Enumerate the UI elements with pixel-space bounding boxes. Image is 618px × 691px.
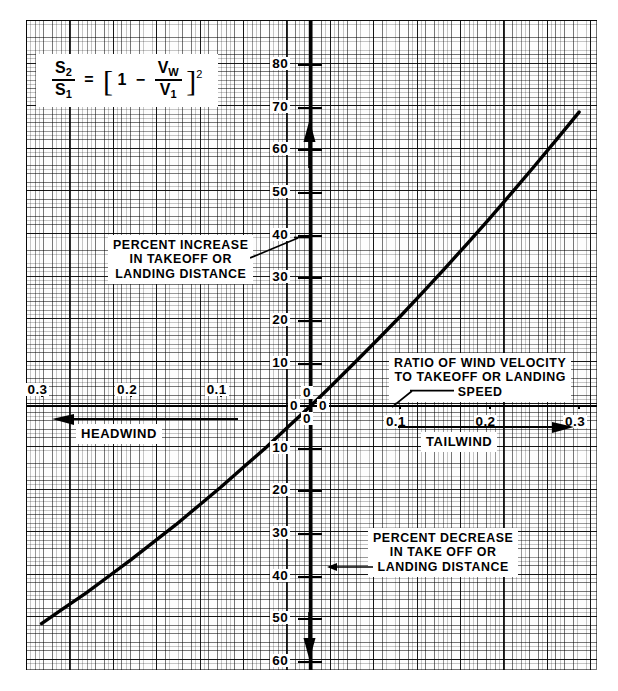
formula-lhs-denominator: S1 (52, 79, 75, 100)
y-tick-label-plus-10: 10 (270, 356, 290, 369)
axis-tick (298, 107, 322, 109)
formula-equals: = (79, 71, 98, 88)
down-arrow-icon (301, 612, 319, 660)
formula-lhs: S2 S1 (52, 60, 75, 100)
formula-exponent: 2 (196, 68, 202, 80)
formula-bracket-close: ] (186, 64, 196, 97)
formula-bracket-open: [ (103, 64, 113, 97)
y-tick-label-plus-30: 30 (270, 270, 290, 283)
x-tick-label-headwind-0.1: 0.1 (205, 383, 229, 396)
origin-label-lower: 0 (301, 412, 313, 425)
figure-root: 8070605040302010 102030405060 0.30.20.1 … (0, 0, 618, 691)
y-tick-label-minus-60: 60 (270, 654, 290, 667)
axis-tick (298, 363, 322, 365)
formula-rhs-denominator: V1 (155, 79, 182, 100)
axis-tick (298, 320, 322, 322)
callout-ratio-leader (392, 388, 456, 408)
x-tick-label-headwind-0.3: 0.3 (26, 383, 50, 396)
x-tick-label-headwind-0.2: 0.2 (115, 383, 139, 396)
y-tick-label-plus-70: 70 (270, 100, 290, 113)
y-tick-label-plus-60: 60 (270, 142, 290, 155)
x-axis-line (26, 405, 597, 407)
callout-increase-leader (250, 236, 314, 260)
callout-decrease-line2: IN TAKE OFF OR (373, 545, 513, 559)
axis-tick (298, 64, 322, 66)
origin-label-left: 0 (288, 399, 300, 412)
y-tick-label-plus-80: 80 (270, 57, 290, 70)
callout-decrease-line3: LANDING DISTANCE (373, 560, 513, 574)
axis-tick (489, 407, 491, 409)
axis-tick (298, 490, 322, 492)
y-tick-label-minus-10: 10 (270, 441, 290, 454)
callout-percent-decrease: PERCENT DECREASE IN TAKE OFF OR LANDING … (368, 528, 518, 577)
formula-minus: − (131, 71, 150, 88)
y-tick-label-minus-50: 50 (270, 611, 290, 624)
callout-increase-line2: IN TAKEOFF OR (113, 252, 248, 266)
formula-box: S2 S1 = [ 1 − VW V1 ]2 (36, 54, 218, 107)
y-tick-label-minus-20: 20 (270, 483, 290, 496)
callout-decrease-leader (327, 560, 373, 574)
axis-tick (298, 661, 322, 663)
callout-ratio-line1: RATIO OF WIND VELOCITY (394, 356, 566, 370)
axis-tick (298, 192, 322, 194)
callout-ratio-line2: TO TAKEOFF OR LANDING (394, 370, 566, 384)
formula-rhs-numerator: VW (155, 60, 182, 79)
axis-tick (298, 277, 322, 279)
formula-lhs-numerator: S2 (52, 60, 75, 79)
tailwind-label: TAILWIND (421, 432, 497, 452)
callout-percent-increase: PERCENT INCREASE IN TAKEOFF OR LANDING D… (108, 235, 253, 284)
y-tick-label-minus-30: 30 (270, 526, 290, 539)
callout-increase-line3: LANDING DISTANCE (113, 267, 248, 281)
headwind-label: HEADWIND (76, 424, 162, 444)
y-axis-line (309, 20, 312, 670)
axis-tick (298, 448, 322, 450)
axis-tick (578, 407, 580, 409)
callout-decrease-line1: PERCENT DECREASE (373, 531, 513, 545)
up-arrow-icon (301, 120, 319, 168)
y-tick-label-plus-20: 20 (270, 313, 290, 326)
origin-label-right: 0 (317, 399, 329, 412)
callout-increase-line1: PERCENT INCREASE (113, 238, 248, 252)
formula-one: 1 (118, 71, 127, 88)
formula-rhs: VW V1 (155, 60, 182, 100)
origin-label-upper: 0 (301, 386, 313, 399)
y-tick-label-plus-50: 50 (270, 185, 290, 198)
axis-tick (298, 533, 322, 535)
y-tick-label-minus-40: 40 (270, 569, 290, 582)
axis-tick (298, 576, 322, 578)
